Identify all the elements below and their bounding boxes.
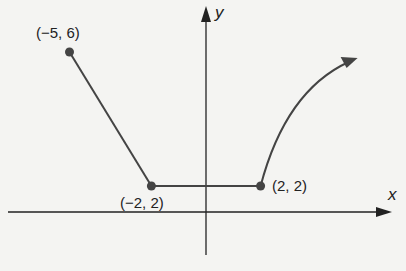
curve-arrow-icon <box>341 57 358 68</box>
point-0 <box>65 48 74 57</box>
x-axis-arrow-icon <box>376 207 392 217</box>
x-axis-label: x <box>388 185 397 205</box>
point-1 <box>147 182 156 191</box>
point-2 <box>256 182 265 191</box>
y-axis-label: y <box>215 3 224 23</box>
curve-segment <box>261 62 349 186</box>
segment-0 <box>70 52 152 186</box>
point-label-c: (2, 2) <box>272 177 307 194</box>
point-label-b: (−2, 2) <box>120 194 164 211</box>
y-axis-arrow-icon <box>201 6 211 22</box>
point-label-a: (−5, 6) <box>36 24 80 41</box>
